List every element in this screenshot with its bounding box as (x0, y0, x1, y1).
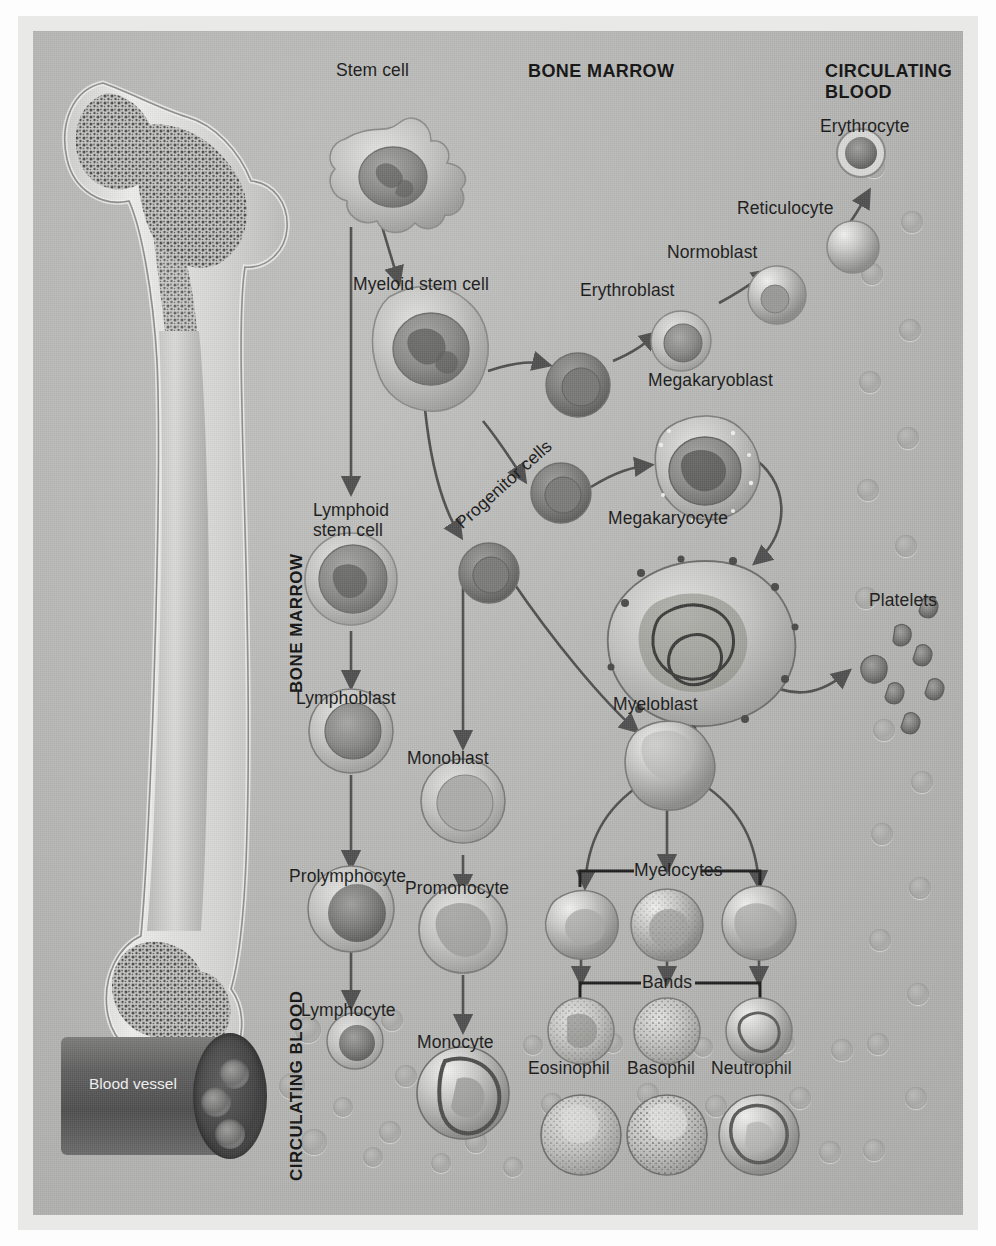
label-platelets: Platelets (869, 591, 937, 611)
header-bone-marrow-side: BONE MARROW (287, 553, 307, 693)
cell-erythroblast (651, 311, 711, 371)
cell-progenitor-upper (546, 353, 610, 417)
cell-normoblast (748, 266, 806, 324)
cell-basophil (627, 1095, 707, 1175)
label-stem-cell: Stem cell (336, 61, 409, 81)
label-monocyte: Monocyte (417, 1033, 494, 1053)
label-promonocyte: Promonocyte (405, 879, 509, 899)
label-megakaryoblast: Megakaryoblast (648, 371, 773, 391)
label-normoblast: Normoblast (667, 243, 757, 263)
cell-myeloblast (625, 721, 715, 810)
label-myeloblast: Myeloblast (613, 695, 698, 715)
label-myeloid-stem-cell: Myeloid stem cell (353, 275, 489, 295)
cell-band-eosinophil (548, 998, 614, 1064)
label-neutrophil: Neutrophil (711, 1059, 792, 1079)
label-lymphoblast: Lymphoblast (296, 689, 396, 709)
cell-myelocyte-eosinophilic (546, 891, 618, 959)
label-blood-vessel: Blood vessel (89, 1075, 177, 1094)
cell-lymphocyte (327, 1013, 383, 1069)
cell-myeloid-stem-cell (373, 286, 489, 411)
label-myelocytes: Myelocytes (634, 861, 723, 881)
cell-progenitor-lower (459, 543, 519, 603)
cell-reticulocyte (827, 221, 879, 273)
figure-page: BONE MARROW CIRCULATING BLOOD BONE MARRO… (0, 0, 996, 1246)
label-erythrocyte: Erythrocyte (820, 117, 910, 137)
blood-vessel-illustration: Blood vessel (61, 1037, 271, 1159)
cell-lymphoid-stem-cell (305, 533, 397, 625)
cell-progenitor-mid (531, 463, 591, 523)
cell-monoblast (421, 759, 505, 843)
figure-panel: BONE MARROW CIRCULATING BLOOD BONE MARRO… (33, 31, 963, 1215)
label-eosinophil: Eosinophil (528, 1059, 610, 1079)
vessel-rbc-3 (215, 1119, 245, 1149)
cell-myelocyte-basophilic (631, 889, 703, 961)
cell-eosinophil (541, 1095, 621, 1175)
label-prolymphocyte: Prolymphocyte (289, 867, 406, 887)
label-reticulocyte: Reticulocyte (737, 199, 834, 219)
vessel-rbc-2 (201, 1087, 231, 1117)
label-monoblast: Monoblast (407, 749, 489, 769)
cell-band-neutrophil (726, 998, 792, 1064)
cell-stem-cell (330, 118, 465, 232)
cell-myelocyte-neutrophilic (722, 886, 796, 960)
header-bone-marrow-top: BONE MARROW (528, 61, 674, 82)
cell-monocyte (417, 1047, 509, 1139)
cell-neutrophil (719, 1095, 799, 1175)
label-lymphocyte: Lymphocyte (301, 1001, 396, 1021)
label-basophil: Basophil (627, 1059, 695, 1079)
cell-band-basophil (634, 998, 700, 1064)
label-lymphoid-stem-cell: Lymphoid stem cell (313, 501, 389, 540)
header-circulating-blood-top: CIRCULATING BLOOD (825, 61, 952, 102)
label-erythroblast: Erythroblast (580, 281, 675, 301)
vessel-rbc-1 (219, 1059, 249, 1089)
label-megakaryocyte: Megakaryocyte (608, 509, 728, 529)
label-bands: Bands (642, 973, 692, 993)
cell-platelets (861, 597, 944, 734)
